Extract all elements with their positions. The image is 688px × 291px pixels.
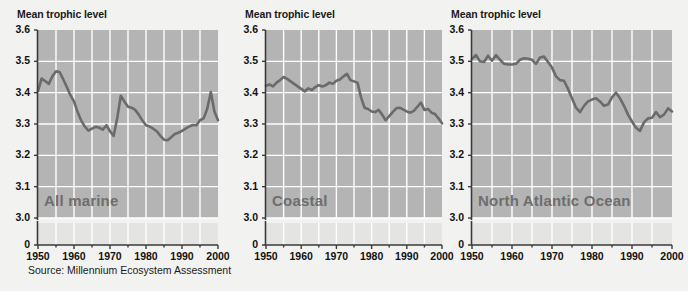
- y-tick-label: 3.2: [432, 148, 464, 160]
- x-tick-label: 1960: [492, 250, 532, 262]
- source-note: Source: Millennium Ecosystem Assessment: [28, 264, 231, 276]
- y-tick-label-zero: 0: [0, 238, 30, 250]
- x-tick-label: 1970: [90, 250, 130, 262]
- y-tick-label: 3.4: [226, 86, 258, 98]
- panel-title: All marine: [44, 192, 119, 209]
- y-tick-label-zero: 0: [226, 238, 258, 250]
- x-tick-label: 1980: [352, 250, 392, 262]
- y-tick-label: 3.3: [0, 117, 30, 129]
- y-tick-label: 3.3: [226, 117, 258, 129]
- y-tick-label: 3.5: [226, 54, 258, 66]
- plot-area: [434, 0, 688, 291]
- y-tick-label: 3.0: [432, 211, 464, 223]
- x-tick-label: 1950: [452, 250, 492, 262]
- y-tick-label: 3.6: [0, 23, 30, 35]
- y-tick-label: 3.4: [432, 86, 464, 98]
- y-tick-label: 3.1: [432, 180, 464, 192]
- chart-panel-2: Mean trophic level3.03.13.23.33.43.53.60…: [228, 0, 462, 291]
- y-tick-label: 3.5: [0, 54, 30, 66]
- plot-area: [228, 0, 462, 291]
- y-tick-label: 3.2: [226, 148, 258, 160]
- x-tick-label: 1960: [281, 250, 321, 262]
- x-tick-label: 1980: [572, 250, 612, 262]
- y-tick-label: 3.0: [0, 211, 30, 223]
- x-tick-label: 1970: [532, 250, 572, 262]
- y-tick-label: 3.6: [432, 23, 464, 35]
- x-tick-label: 1990: [387, 250, 427, 262]
- y-tick-label-zero: 0: [432, 238, 464, 250]
- x-tick-label: 1950: [246, 250, 286, 262]
- y-tick-label: 3.3: [432, 117, 464, 129]
- plot-area: [0, 0, 238, 291]
- panel-title: Coastal: [272, 192, 328, 209]
- chart-panel-3: Mean trophic level3.03.13.23.33.43.53.60…: [434, 0, 688, 291]
- x-tick-label: 1960: [54, 250, 94, 262]
- x-tick-label: 1980: [126, 250, 166, 262]
- y-tick-label: 3.6: [226, 23, 258, 35]
- chart-panel-1: Mean trophic level3.03.13.23.33.43.53.60…: [0, 0, 238, 291]
- y-tick-label: 3.4: [0, 86, 30, 98]
- x-tick-label: 1990: [162, 250, 202, 262]
- x-tick-label: 1970: [316, 250, 356, 262]
- panel-title: North Atlantic Ocean: [478, 192, 631, 209]
- y-tick-label: 3.1: [226, 180, 258, 192]
- y-tick-label: 3.5: [432, 54, 464, 66]
- x-tick-label: 1950: [18, 250, 58, 262]
- x-tick-label: 2000: [652, 250, 688, 262]
- y-tick-label: 3.0: [226, 211, 258, 223]
- x-tick-label: 1990: [612, 250, 652, 262]
- y-tick-label: 3.1: [0, 180, 30, 192]
- y-tick-label: 3.2: [0, 148, 30, 160]
